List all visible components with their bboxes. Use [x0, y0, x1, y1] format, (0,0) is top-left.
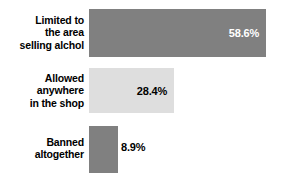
bar-value-label: 28.4% — [137, 85, 174, 97]
bar-value-label: 58.6% — [229, 27, 266, 39]
bar-segment — [89, 126, 118, 173]
bar-segment: 58.6% — [89, 9, 266, 57]
chart-row: Allowed anywhere in the shop 28.4% — [0, 68, 286, 113]
bar-category-label: Allowed anywhere in the shop — [0, 72, 84, 109]
horizontal-bar-chart: Limited to the area selling alchol 58.6%… — [0, 0, 286, 188]
chart-row: Limited to the area selling alchol 58.6% — [0, 9, 286, 57]
bar-value-label: 8.9% — [121, 141, 145, 153]
chart-row: Banned altogether 8.9% — [0, 126, 286, 173]
bar-segment: 28.4% — [89, 68, 174, 113]
bar-category-label: Limited to the area selling alchol — [0, 14, 84, 51]
bar-category-label: Banned altogether — [0, 136, 84, 161]
